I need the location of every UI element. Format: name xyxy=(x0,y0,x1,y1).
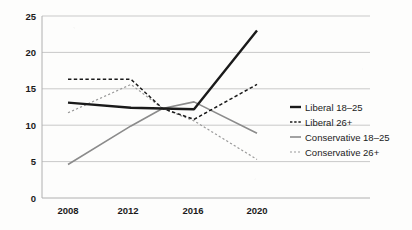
y-tick-label: 15 xyxy=(25,83,36,94)
chart-background xyxy=(0,0,412,230)
x-tick-label: 2020 xyxy=(246,205,267,216)
x-tick-label: 2008 xyxy=(57,205,78,216)
legend-item-label: Liberal 26+ xyxy=(305,117,353,128)
y-tick-label: 5 xyxy=(31,156,37,167)
y-tick-label: 10 xyxy=(25,120,36,131)
y-tick-label: 0 xyxy=(31,193,36,204)
x-tick-label: 2016 xyxy=(182,205,203,216)
x-tick-label: 2012 xyxy=(117,205,138,216)
chart-svg: 25 20 15 10 5 0 2008 2012 2016 2020 Libe… xyxy=(0,0,412,230)
legend-item-conservative-18-25[interactable]: Conservative 18–25 xyxy=(290,132,390,143)
y-tick-label: 20 xyxy=(25,47,36,58)
line-chart: 25 20 15 10 5 0 2008 2012 2016 2020 Libe… xyxy=(0,0,412,230)
legend-item-label: Liberal 18–25 xyxy=(305,102,363,113)
legend-item-label: Conservative 18–25 xyxy=(305,132,390,143)
y-tick-label: 25 xyxy=(25,11,36,22)
legend-item-label: Conservative 26+ xyxy=(305,147,380,158)
